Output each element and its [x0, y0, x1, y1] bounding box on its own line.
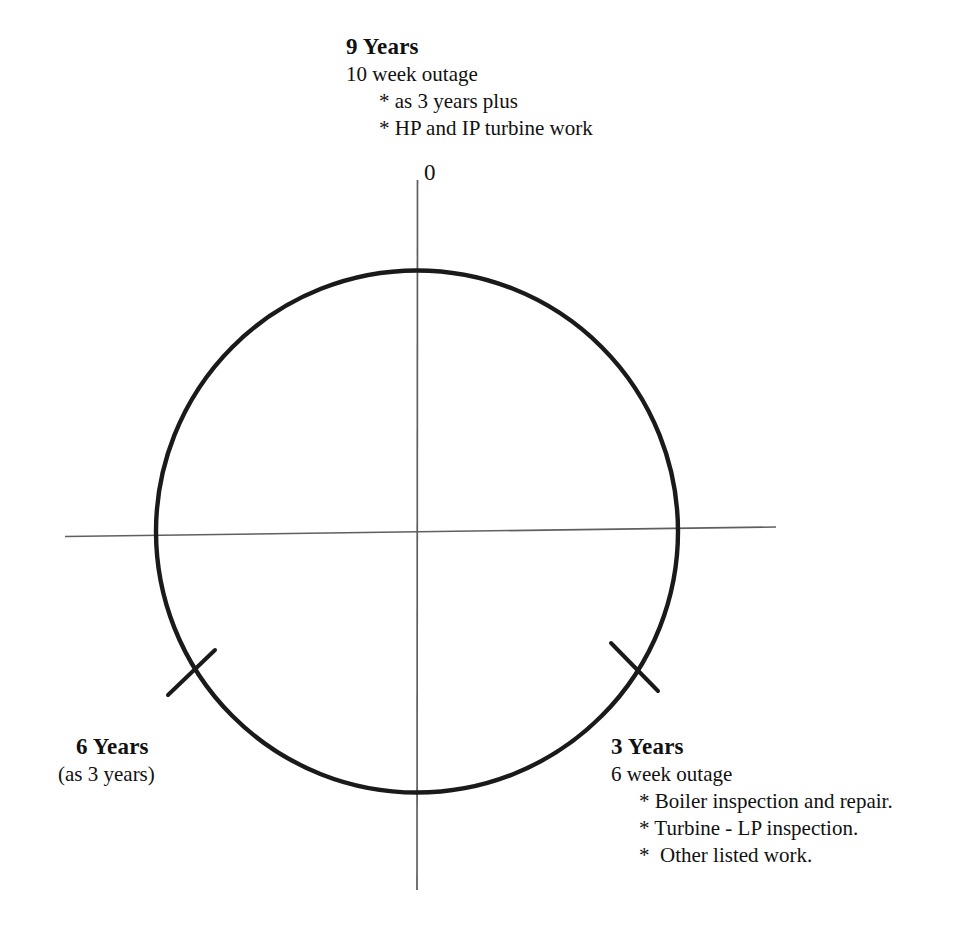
- three-years-heading: 3 Years: [611, 733, 893, 761]
- nine-years-bullet-list: * as 3 years plus * HP and IP turbine wo…: [379, 88, 593, 142]
- six-years-block: 6 Years (as 3 years): [76, 733, 155, 788]
- origin-label: 0: [424, 160, 436, 186]
- horizontal-axis: [65, 527, 776, 537]
- three-years-block: 3 Years 6 week outage * Boiler inspectio…: [611, 733, 893, 869]
- vertical-axis: [417, 180, 418, 890]
- list-item: * Turbine - LP inspection.: [639, 815, 893, 842]
- three-years-bullet-list: * Boiler inspection and repair. * Turbin…: [639, 788, 893, 869]
- nine-years-block: 9 Years 10 week outage * as 3 years plus…: [346, 33, 593, 142]
- list-item: * HP and IP turbine work: [379, 115, 593, 142]
- list-item: * Other listed work.: [639, 842, 893, 869]
- nine-years-subtitle: 10 week outage: [346, 61, 593, 88]
- list-item: * Boiler inspection and repair.: [639, 788, 893, 815]
- list-item: * as 3 years plus: [379, 88, 593, 115]
- nine-years-heading: 9 Years: [346, 33, 593, 61]
- six-years-heading: 6 Years: [76, 733, 155, 761]
- three-years-subtitle: 6 week outage: [611, 761, 893, 788]
- six-years-subtitle: (as 3 years): [58, 761, 155, 788]
